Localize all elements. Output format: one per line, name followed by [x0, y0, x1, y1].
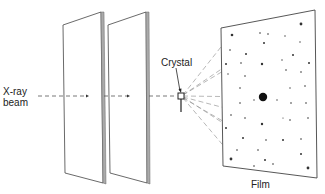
xray-beam-label-line2: beam — [3, 97, 43, 108]
film — [221, 10, 317, 178]
diagram-graphic — [0, 0, 325, 194]
collimator-plate-2 — [108, 12, 150, 184]
xray-beam-label-line1: X-ray — [3, 86, 43, 97]
xray-beam-label: X-ray beam — [3, 86, 43, 108]
diffraction-diagram: X-ray beam Crystal Film — [0, 0, 325, 194]
crystal-label: Crystal — [161, 57, 192, 68]
central-spot — [259, 93, 267, 101]
crystal — [176, 68, 184, 112]
film-label: Film — [251, 179, 270, 190]
collimator-plate-1 — [63, 12, 106, 184]
